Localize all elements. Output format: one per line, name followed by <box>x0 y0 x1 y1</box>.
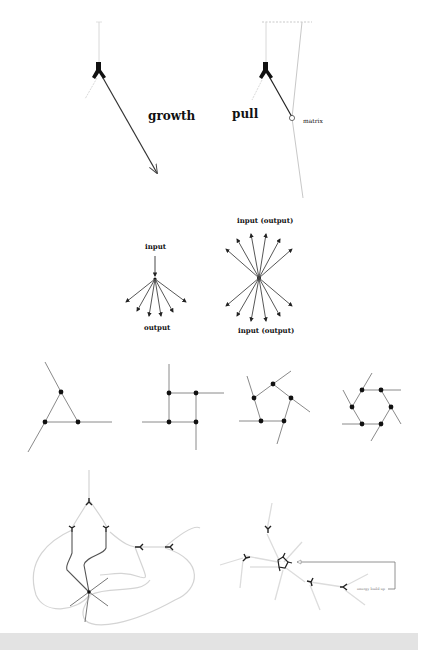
panel-pull: pull matrix <box>232 22 323 198</box>
pull-trail-line <box>252 80 262 100</box>
panel-growth: growth <box>85 22 196 173</box>
panel-polygons <box>28 362 401 452</box>
feedback-arrowhead-icon <box>297 560 301 564</box>
panel-network-left <box>33 470 200 625</box>
matrix-label: matrix <box>303 117 323 124</box>
growth-label: growth <box>148 109 196 123</box>
growth-cone-icon <box>92 62 106 79</box>
pull-cone-icon <box>259 62 273 79</box>
polygon-triangle <box>28 362 112 452</box>
footer-strip <box>0 633 418 650</box>
diagram-canvas: growth pull matrix input <box>0 0 425 650</box>
panel-network-right: energy build up <box>220 503 395 610</box>
pull-label: pull <box>232 107 259 121</box>
pull-line <box>270 78 292 117</box>
polygon-pentagon <box>239 371 310 444</box>
star-top-label: input (output) <box>237 216 293 225</box>
fan-output-arrows <box>126 279 186 316</box>
panel-bidirectional: input (output) input (output) <box>226 216 294 335</box>
growth-arrow <box>103 78 157 173</box>
network-left-hub <box>87 590 91 594</box>
growth-trail-line <box>85 78 97 99</box>
matrix-line <box>292 22 303 198</box>
star-up-arrows <box>226 234 292 278</box>
star-bottom-label: input (output) <box>238 326 294 335</box>
network-left-cones <box>69 498 173 550</box>
polygon-hexagon <box>342 373 401 441</box>
star-down-arrows <box>226 278 292 321</box>
polygon-square <box>142 364 224 450</box>
fan-input-label: input <box>145 242 167 251</box>
matrix-anchor-icon <box>289 115 294 120</box>
fan-output-label: output <box>144 323 171 332</box>
panel-fan-out: input output <box>126 242 186 332</box>
energy-build-up-label: energy build up <box>357 587 386 591</box>
